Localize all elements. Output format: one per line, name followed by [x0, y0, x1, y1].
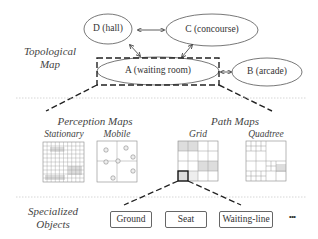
stationary-label: Stationary — [38, 129, 90, 139]
node-d: D (hall) — [84, 23, 132, 33]
node-c: C (concourse) — [166, 24, 258, 34]
perception-maps-title: Perception Maps — [50, 115, 140, 128]
object-ground: Ground — [110, 211, 152, 228]
grid-label: Grid — [178, 129, 218, 139]
node-b: B (arcade) — [232, 66, 302, 76]
quadtree-label: Quadtree — [240, 129, 292, 139]
node-a: A (waiting room) — [97, 65, 219, 75]
more-objects-ellipsis: ••• — [282, 212, 302, 222]
zoom-line-cell-left — [124, 181, 178, 205]
path-maps-title: Path Maps — [195, 115, 275, 128]
mobile-label: Mobile — [95, 129, 139, 139]
edge-c-a — [182, 45, 192, 57]
layer-label-topological: Topological Map — [20, 45, 80, 71]
quadtree-path-map — [246, 141, 286, 181]
zoom-line-cell-right — [188, 181, 241, 205]
stationary-map — [43, 142, 84, 182]
object-seat: Seat — [165, 211, 207, 228]
edge-d-a — [130, 45, 140, 56]
layer-label-specialized: Specialized Objects — [22, 205, 84, 231]
grid-path-map — [178, 141, 218, 181]
object-waiting-line: Waiting-line — [219, 211, 273, 228]
mobile-map — [97, 141, 137, 182]
